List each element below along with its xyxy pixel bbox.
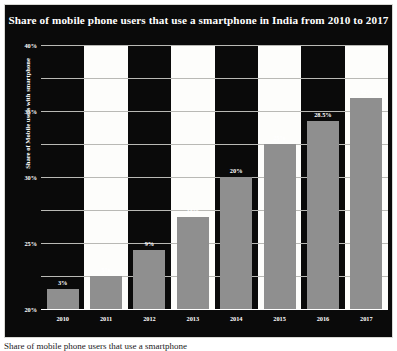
x-axis-tick-label: 2012 [128, 315, 171, 322]
y-axis-tick-label: 25% [24, 240, 37, 247]
x-axis-tick-label: 2010 [41, 315, 84, 322]
bar [350, 98, 382, 309]
bar-value-label: 28.5% [314, 111, 332, 118]
bar-value-label: 14% [186, 207, 199, 214]
x-axis-tick-label: 2014 [215, 315, 258, 322]
chart-panel: Share of mobile phone users that use a s… [4, 4, 393, 338]
bar-value-label: 32% [360, 88, 373, 95]
bar [264, 144, 296, 309]
bar [307, 121, 339, 309]
bar-value-label: 9% [145, 240, 155, 247]
x-axis-tick-label: 2017 [345, 315, 388, 322]
bar [220, 177, 252, 309]
x-axis-tick-label: 2015 [258, 315, 301, 322]
bar [133, 250, 165, 309]
x-axis-line [41, 309, 388, 310]
plot-area: 0%5%10%15%20%25%30%35%40%3%5%9%14%20%25%… [41, 45, 388, 309]
gridline: 40% [41, 45, 388, 46]
gridline: 35% [41, 78, 388, 79]
figure-caption: Share of mobile phone users that use a s… [4, 341, 334, 351]
bar-value-label: 25% [273, 134, 286, 141]
x-axis-tick-label: 2016 [301, 315, 344, 322]
chart-title: Share of mobile phone users that use a s… [5, 14, 392, 26]
bar [47, 289, 79, 309]
caption-text: Share of mobile phone users that use a s… [4, 341, 334, 351]
bar-value-label: 3% [58, 279, 68, 286]
bar [90, 276, 122, 309]
x-axis-tick-label: 2013 [171, 315, 214, 322]
gridline: 30% [41, 111, 388, 112]
y-axis-tick-label: 20% [24, 306, 37, 313]
bar-value-label: 20% [230, 167, 243, 174]
bar [177, 217, 209, 309]
y-axis-tick-label: 35% [24, 108, 37, 115]
x-axis-tick-labels: 20102011201220132014201520162017 [41, 312, 388, 328]
bar-value-label: 5% [101, 266, 111, 273]
y-axis-tick-label: 30% [24, 174, 37, 181]
x-axis-tick-label: 2011 [84, 315, 127, 322]
figure: Share of mobile phone users that use a s… [0, 0, 397, 351]
y-axis-tick-label: 40% [24, 42, 37, 49]
